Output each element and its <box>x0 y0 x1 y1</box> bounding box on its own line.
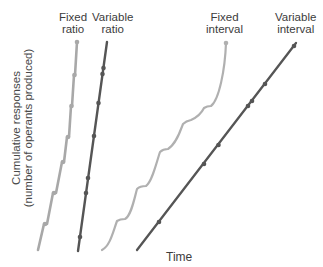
y-axis-label-line1: Cumulative responses <box>10 28 22 228</box>
label-fixed-ratio-line1: Fixed <box>59 11 87 23</box>
series-variable-ratio <box>78 42 107 251</box>
cumulative-record-chart <box>0 0 323 267</box>
label-fixed-ratio-line2: ratio <box>59 23 87 35</box>
label-fixed-interval: Fixed interval <box>206 11 243 35</box>
series-fixed-interval <box>102 41 228 250</box>
series-fixed-ratio <box>38 40 79 250</box>
label-fixed-interval-line1: Fixed <box>206 11 243 23</box>
y-axis-label: Cumulative responses (number of operants… <box>10 28 34 228</box>
label-variable-ratio-line2: ratio <box>92 23 133 35</box>
label-variable-interval: Variable interval <box>275 11 316 35</box>
label-variable-interval-line2: interval <box>275 23 316 35</box>
label-variable-ratio-line1: Variable <box>92 11 133 23</box>
x-axis-label: Time <box>166 250 192 264</box>
series-variable-interval <box>137 43 296 250</box>
label-variable-interval-line1: Variable <box>275 11 316 23</box>
y-axis-label-line2: (number of operants produced) <box>22 28 34 228</box>
label-fixed-interval-line2: interval <box>206 23 243 35</box>
label-fixed-ratio: Fixed ratio <box>59 11 87 35</box>
label-variable-ratio: Variable ratio <box>92 11 133 35</box>
